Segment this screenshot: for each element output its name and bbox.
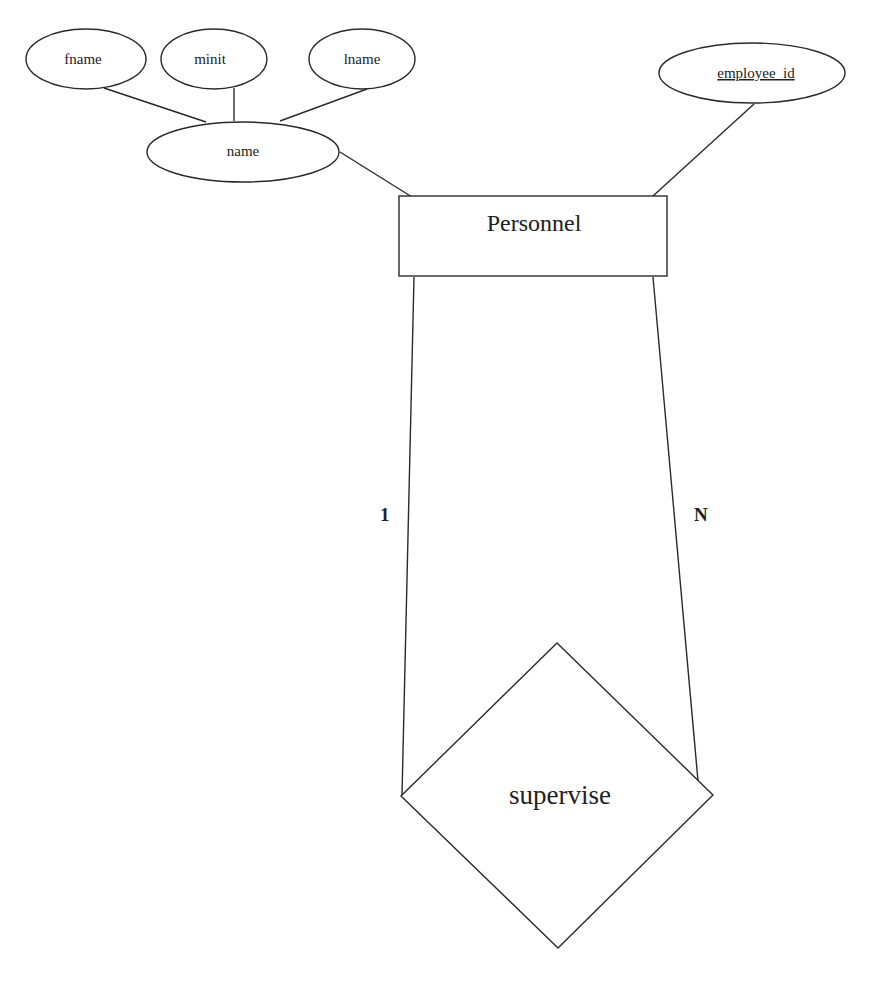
entity-rectangle	[399, 196, 667, 276]
attribute-fname[interactable]: fname	[26, 29, 146, 89]
edge-name-personnel	[340, 152, 412, 197]
cardinality-left: 1	[380, 504, 390, 525]
edge-lname-name	[280, 89, 367, 121]
edge-employee-id-personnel	[653, 104, 754, 196]
attribute-label: lname	[344, 51, 381, 67]
attribute-label: minit	[194, 51, 227, 67]
attribute-name[interactable]: name	[147, 122, 339, 182]
connectors	[104, 88, 754, 795]
attribute-employee-id[interactable]: employee_id	[659, 43, 845, 103]
edge-personnel-supervise-right	[653, 277, 698, 781]
cardinality-right: N	[694, 504, 708, 525]
attribute-lname[interactable]: lname	[309, 29, 415, 89]
edge-personnel-supervise-left	[402, 277, 414, 795]
key-attribute-label: employee_id	[717, 65, 795, 81]
attribute-minit[interactable]: minit	[161, 29, 267, 89]
edge-fname-name	[104, 88, 206, 122]
attribute-label: name	[227, 143, 260, 159]
attribute-label: fname	[64, 51, 102, 67]
relationship-supervise[interactable]: supervise	[401, 643, 713, 948]
relationship-label: supervise	[509, 780, 611, 810]
er-diagram-canvas: fname minit lname name employee_id Perso…	[0, 0, 890, 981]
entity-personnel[interactable]: Personnel	[399, 196, 667, 276]
entity-label: Personnel	[487, 210, 582, 236]
